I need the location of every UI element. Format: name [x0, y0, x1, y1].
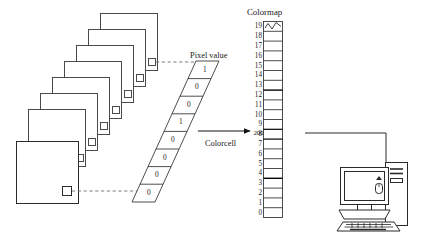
- pixel-value-label: Pixel value: [190, 52, 227, 60]
- monitor-stand-base: [339, 210, 390, 219]
- pixel-bit-5: 0: [163, 154, 167, 161]
- pixel-bit-0: 1: [203, 66, 207, 73]
- colormap-index-17: 17: [248, 43, 262, 50]
- pixel-bit-7: 0: [147, 189, 151, 196]
- colormap-index-13: 13: [248, 82, 262, 89]
- colormap-index-6: 6: [248, 151, 262, 158]
- diagram-canvas: Pixel value Colorcell Colormap 1 0 0 1 0…: [0, 0, 427, 237]
- bitplane-stack: [17, 14, 158, 204]
- colormap-index-15: 15: [248, 63, 262, 70]
- colormap-index-11: 11: [248, 102, 262, 109]
- colormap-index-14: 14: [248, 72, 262, 79]
- colormap-index-1: 1: [248, 200, 262, 207]
- colormap-index-16: 16: [248, 53, 262, 60]
- colormap-index-5: 5: [248, 161, 262, 168]
- diagram-vector-layer: [0, 0, 427, 237]
- colormap-index-3: 3: [248, 180, 262, 187]
- colormap-index-2: 2: [248, 190, 262, 197]
- pixel-bit-4: 0: [171, 136, 175, 143]
- pixel-bit-6: 0: [155, 171, 159, 178]
- colormap-index-4: 4: [248, 170, 262, 177]
- colormap-index-9: 9: [248, 121, 262, 128]
- colormap-index-19: 19: [248, 23, 262, 30]
- colormap-index-18: 18: [248, 33, 262, 40]
- desktop-computer: [337, 163, 408, 232]
- colormap-highlighted-value: 200: [254, 130, 264, 137]
- colormap-column: [264, 22, 283, 218]
- tower-drive-slot: [391, 179, 403, 183]
- colormap-label: Colormap: [247, 8, 282, 17]
- pixel-bit-1: 0: [195, 83, 199, 90]
- colormap-to-computer-line: [305, 133, 386, 163]
- pixel-bit-3: 1: [179, 118, 183, 125]
- pixel-bit-2: 0: [187, 101, 191, 108]
- bitplane-7: [17, 142, 79, 204]
- colormap-index-0: 0: [248, 210, 262, 217]
- colormap-index-10: 10: [248, 112, 262, 119]
- colorcell-label: Colorcell: [205, 140, 236, 148]
- colormap-index-12: 12: [248, 92, 262, 99]
- colormap-index-7: 7: [248, 141, 262, 148]
